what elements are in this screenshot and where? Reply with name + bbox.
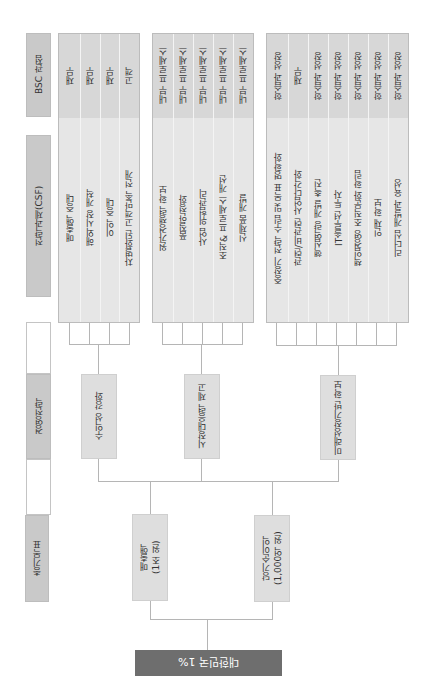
bsc-item: 내부 프로세스 (153, 34, 173, 118)
bsc-item: 재무 (80, 34, 100, 118)
csf-item: 중장기 전략 수립 및 목표 명확화 (267, 118, 288, 318)
bsc-item: 학습과 성장 (368, 34, 388, 118)
header-connector-space-2 (26, 459, 51, 515)
header-connector-space (26, 322, 51, 374)
goal-label: 당기순이익 (1,000억 원) (255, 516, 289, 601)
strategy-label: 미래성장기반 확보 (321, 376, 355, 459)
csf-panel-group-3: 학습과 성장 재무 학습과 성장 학습과 성장 학습과 성장 학습과 성장 학습… (266, 33, 409, 323)
csf-item: 책임경영 조직문화 확립 (348, 118, 368, 318)
csf-item: IT솔루션 투자 (328, 118, 348, 318)
csf-item: 이익 증대 (100, 118, 119, 318)
csf-item: 핵심역량 개발 촉진 (308, 118, 328, 318)
header-bsc-label: BSC 관점 (27, 34, 50, 116)
bsc-item: 학습과 성장 (267, 34, 288, 118)
csf-item: 신제품 개발 (233, 118, 253, 318)
csf-item: 관련/비관련 사업다각화 (288, 118, 308, 318)
csf-item: 매출액 증대 (59, 118, 80, 318)
root-vision-node: 대한민국 1% (135, 650, 282, 676)
csf-item: 품질안정화 (173, 118, 193, 318)
bsc-item: 내부 프로세스 (213, 34, 233, 118)
header-csf-label: 전략과제(CSF) (27, 136, 50, 296)
csf-item: 조직& 프로세스 개선 (213, 118, 233, 318)
csf-item: 해외시장 개척 (80, 118, 100, 318)
strategy-label: 시장대응력 제고 (185, 375, 219, 458)
goal-label: 매출액 (1조 원) (133, 515, 167, 600)
strategy-node-3: 미래성장기반 확보 (320, 375, 356, 460)
csf-item: 인재 확보 (368, 118, 388, 318)
header-goal: 총기목표 (25, 515, 49, 602)
csf-item: 리더십 개발과 육성 (388, 118, 408, 318)
bsc-item: 내부 프로세스 (193, 34, 213, 118)
bsc-item: 내부 프로세스 (233, 34, 253, 118)
header-strategy: 경영전략 (26, 374, 51, 459)
csf-item: 사업 위험관리 (193, 118, 213, 318)
bsc-item: 학습과 성장 (348, 34, 368, 118)
csf-panel-group-1: 재무 재무 재무 고객 매출액 증대 해외시장 개척 이익 증대 차별화된 고객… (58, 33, 140, 323)
strategy-label: 수익성 강화 (82, 375, 116, 458)
bsc-item: 재무 (59, 34, 80, 118)
root-label: 대한민국 1% (135, 650, 282, 676)
csf-item: 차별화된 고객만족 전개 (119, 118, 139, 318)
strategy-node-2: 시장대응력 제고 (184, 374, 220, 459)
header-bsc: BSC 관점 (26, 33, 51, 117)
bsc-item: 내부 프로세스 (173, 34, 193, 118)
bsc-item: 재무 (100, 34, 119, 118)
header-strategy-label: 경영전략 (27, 375, 50, 458)
strategy-node-1: 수익성 강화 (81, 374, 117, 459)
bsc-item: 고객 (119, 34, 139, 118)
bsc-item: 재무 (288, 34, 308, 118)
header-goal-label: 총기목표 (26, 516, 48, 601)
csf-item: 원가경쟁력 확보 (153, 118, 173, 318)
goal-node-2: 당기순이익 (1,000억 원) (254, 515, 290, 602)
bsc-item: 학습과 성장 (328, 34, 348, 118)
csf-panel-group-2: 내부 프로세스 내부 프로세스 내부 프로세스 내부 프로세스 내부 프로세스 … (152, 33, 254, 323)
bsc-item: 학습과 성장 (308, 34, 328, 118)
goal-node-1: 매출액 (1조 원) (132, 514, 168, 601)
header-csf: 전략과제(CSF) (26, 135, 51, 297)
bsc-item: 학습과 성장 (388, 34, 408, 118)
